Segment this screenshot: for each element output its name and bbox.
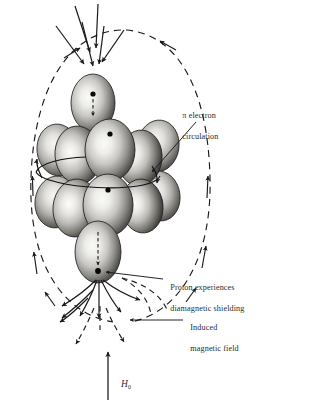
label-h0-symbol: H [121,379,128,389]
label-pi-line1: π electron [182,111,216,120]
label-pi-electron-circulation: π electron circulation [178,101,218,142]
label-proton-line1: Proton experiences [170,283,234,292]
label-proton-shielding: Proton experiences diamagnetic shielding [166,273,244,314]
bottom-field-lines-dashed [76,306,124,344]
label-induced-line2: magnetic field [190,344,238,353]
label-induced-magnetic-field: Induced magnetic field [186,313,239,354]
label-induced-line1: Induced [190,323,217,332]
label-pi-line2: circulation [182,132,218,141]
label-applied-field: H0 [116,369,131,392]
label-h0-subscript: 0 [128,384,131,390]
label-proton-line2: diamagnetic shielding [170,304,244,313]
